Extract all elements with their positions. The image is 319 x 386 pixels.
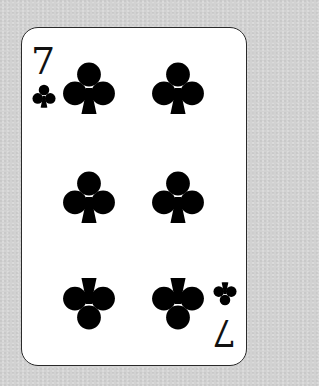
club-icon [32, 84, 56, 108]
club-icon [150, 61, 206, 115]
club-icon [216, 49, 240, 73]
club-icon [61, 170, 117, 224]
club-icon [61, 61, 117, 115]
club-icon [61, 277, 117, 331]
club-icon [213, 282, 237, 306]
rank-index-bottom-right: 7 [212, 314, 236, 352]
club-icon [150, 277, 206, 331]
playing-card: 7 7 [21, 27, 247, 366]
rank-index-top-left: 7 [31, 42, 55, 80]
club-icon [150, 170, 206, 224]
